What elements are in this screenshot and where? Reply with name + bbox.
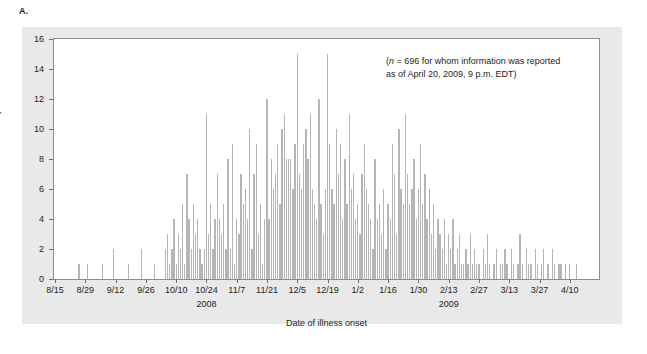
bar [227,159,228,279]
bar [526,249,527,279]
x-axis-tick [116,279,117,283]
bar [357,204,358,279]
bar [500,264,501,279]
bar [165,249,166,279]
bar [249,129,250,279]
bar [193,204,194,279]
bar [312,189,313,279]
bar [173,219,174,279]
bar [446,264,447,279]
bar [195,234,196,279]
x-axis-tick [146,279,147,283]
bar [405,114,406,279]
x-axis-tick-label: 9/26 [137,285,155,295]
bar [275,174,276,279]
bar [186,174,187,279]
bar [199,249,200,279]
x-axis-tick-label: 4/10 [561,285,579,295]
bar [429,189,430,279]
bar [418,189,419,279]
bar [212,249,213,279]
x-axis-tick [388,279,389,283]
bar [383,189,384,279]
bar [266,99,267,279]
x-axis-tick [479,279,480,283]
bar [487,234,488,279]
y-axis-tick-label: 16 [18,34,44,44]
bar [223,204,224,279]
bar [439,234,440,279]
bar [381,234,382,279]
bar [522,264,523,279]
y-axis-title: Number of persons [0,82,1,159]
x-axis-tick [85,279,86,283]
bar [180,249,181,279]
bar [519,234,520,279]
bar [407,174,408,279]
bar [554,264,555,279]
bar [517,264,518,279]
bar [385,249,386,279]
x-axis-tick [55,279,56,283]
bar [208,234,209,279]
y-axis-tick [49,189,53,190]
bar [400,189,401,279]
bar [191,249,192,279]
bar [184,264,185,279]
y-axis-tick-label: 14 [18,64,44,74]
x-axis-tick-label: 12/19 [316,285,339,295]
bar [552,249,553,279]
bar [238,234,239,279]
bar [128,264,129,279]
bar [513,264,514,279]
x-axis-tick-label: 8/29 [77,285,95,295]
x-axis-tick-label: 3/13 [500,285,518,295]
sample-size-annotation: (n = 696 for whom information was report… [386,55,560,81]
bar [325,189,326,279]
x-axis-tick [358,279,359,283]
y-axis-tick-label: 0 [18,274,44,284]
plot-frame: (n = 696 for whom information was report… [53,38,600,280]
bar [338,174,339,279]
bar [478,264,479,279]
x-axis-tick [176,279,177,283]
x-axis-tick-label: 1/16 [379,285,397,295]
bar [273,189,274,279]
bar [141,249,142,279]
bar [288,159,289,279]
bar [336,129,337,279]
bar [297,54,298,279]
bar [474,249,475,279]
bar [310,114,311,279]
bar [247,219,248,279]
bar [450,249,451,279]
x-axis-tick-label: 11/7 [228,285,245,295]
x-axis-tick-label: 2/27 [470,285,488,295]
bar [271,159,272,279]
figure-panel-a: A. (n = 696 for whom information was rep… [0,0,647,354]
bar [448,234,449,279]
x-axis-tick-label: 1/30 [410,285,428,295]
bar [102,264,103,279]
bar [201,264,202,279]
bar [316,219,317,279]
bar [210,204,211,279]
x-axis-tick-label: 9/12 [107,285,125,295]
bar [78,264,79,279]
bar [333,204,334,279]
bar [547,264,548,279]
bar [197,219,198,279]
bar [396,234,397,279]
bar [178,234,179,279]
bar [299,174,300,279]
bar [277,144,278,279]
bar [331,189,332,279]
bar [379,204,380,279]
bar [234,264,235,279]
bar [230,249,231,279]
bar [323,234,324,279]
y-axis-tick-label: 10 [18,124,44,134]
bar [284,114,285,279]
bar [569,264,570,279]
bar [372,249,373,279]
